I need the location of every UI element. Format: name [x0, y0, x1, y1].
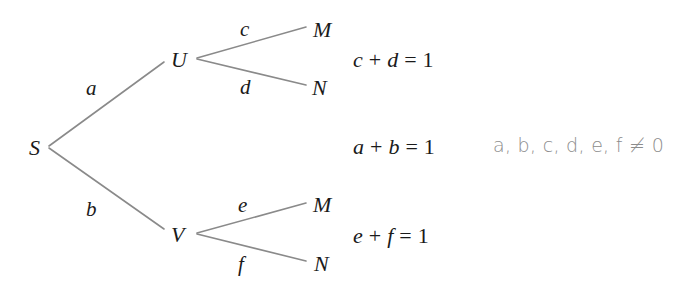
edge-label-b: b	[86, 199, 97, 220]
edge-s-v	[49, 148, 164, 229]
equation-c-plus-d: c+d=1	[353, 49, 434, 71]
equation-a-plus-b: a+b=1	[353, 136, 435, 158]
node-v: V	[171, 224, 184, 246]
edge-label-e: e	[238, 195, 247, 216]
edge-label-f: f	[238, 254, 244, 275]
node-m-lower: M	[313, 194, 331, 216]
node-m-upper: M	[313, 19, 331, 41]
eq-operator: +	[363, 223, 387, 248]
node-n-upper: N	[312, 77, 327, 99]
eq-operator: +	[363, 47, 387, 72]
eq-term: b	[388, 134, 399, 159]
eq-term: c	[353, 47, 363, 72]
eq-value: 1	[424, 134, 435, 159]
node-s: S	[29, 137, 40, 159]
probability-tree-diagram: S U V M N M N a b c d e f c+d=1 a+b=1 e+…	[0, 0, 680, 297]
edge-u-m	[197, 27, 306, 58]
eq-operator: =	[399, 134, 423, 159]
edge-label-a: a	[86, 78, 97, 99]
eq-term: a	[353, 134, 364, 159]
edge-label-c: c	[240, 19, 249, 40]
eq-term: d	[387, 47, 398, 72]
node-n-lower: N	[314, 253, 329, 275]
eq-value: 1	[423, 47, 434, 72]
node-u: U	[171, 49, 187, 71]
eq-operator: +	[364, 134, 388, 159]
eq-term: e	[353, 223, 363, 248]
nonzero-constraint-note: a, b, c, d, e, f ≠ 0	[493, 136, 664, 155]
edge-v-m	[197, 203, 306, 233]
edge-v-n	[197, 234, 306, 261]
eq-operator: =	[398, 47, 422, 72]
edge-label-d: d	[240, 77, 251, 98]
edge-u-n	[197, 59, 306, 85]
eq-value: 1	[418, 223, 429, 248]
equation-e-plus-f: e+f=1	[353, 225, 429, 247]
eq-operator: =	[393, 223, 417, 248]
edge-s-u	[49, 62, 164, 146]
